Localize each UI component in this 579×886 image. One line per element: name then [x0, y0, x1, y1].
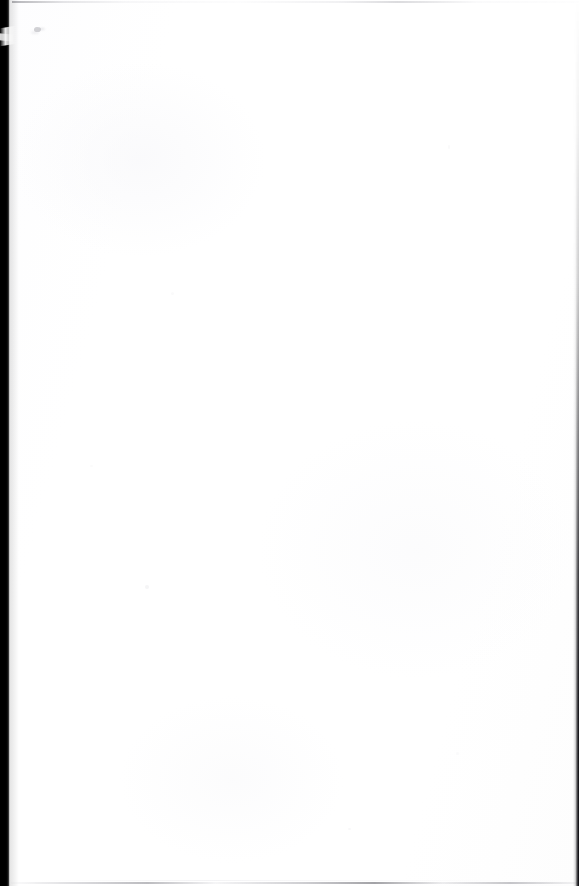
top-scan-line: [12, 1, 579, 3]
paper-speckle: [171, 292, 174, 295]
paper-speckle: [90, 465, 93, 467]
ink-smudge-tail: [39, 28, 45, 30]
bottom-scan-line: [11, 882, 579, 884]
paper-speckle: [348, 828, 351, 830]
ink-smudge-wisp: [31, 31, 39, 34]
page-corner-notch-highlight: [0, 33, 13, 41]
bottom-scan-line-secondary: [40, 880, 560, 881]
right-edge-line: [573, 0, 579, 886]
paper-surface: [0, 0, 579, 886]
paper-speckle: [456, 752, 459, 755]
paper-speckle: [145, 585, 149, 589]
left-gutter-shadow: [0, 0, 10, 886]
ink-smudge: [31, 25, 45, 36]
scanned-document-page: [0, 0, 579, 886]
left-gutter-falloff: [10, 0, 19, 886]
paper-speckle: [448, 145, 450, 149]
